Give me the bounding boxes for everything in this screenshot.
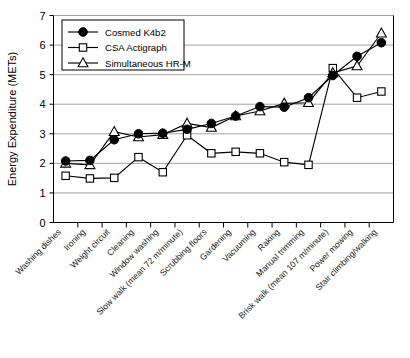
- data-point-marker: [305, 161, 312, 168]
- y-tick-label: 5: [39, 69, 45, 81]
- data-point-marker: [353, 52, 362, 61]
- data-point-marker: [61, 157, 70, 166]
- chart-svg: 01234567Energy Expenditure (METs)Washing…: [0, 0, 410, 358]
- y-tick-label: 3: [39, 128, 45, 140]
- data-point-marker: [62, 172, 69, 179]
- data-point-marker: [256, 150, 263, 157]
- y-tick-label: 0: [39, 217, 45, 229]
- y-axis-title: Energy Expenditure (METs): [6, 52, 18, 187]
- data-point-marker: [353, 94, 360, 101]
- y-tick-label: 1: [39, 187, 45, 199]
- legend-label: Cosmed K4b2: [105, 27, 166, 38]
- energy-expenditure-chart: 01234567Energy Expenditure (METs)Washing…: [0, 0, 410, 358]
- x-category-label: Brisk walk (mean 107 m/minute): [236, 227, 330, 321]
- data-point-marker: [256, 102, 265, 111]
- data-point-marker: [110, 135, 119, 144]
- data-point-marker: [232, 148, 239, 155]
- data-point-marker: [183, 125, 192, 134]
- data-point-marker: [158, 129, 167, 138]
- data-point-marker: [79, 44, 86, 51]
- data-point-marker: [376, 28, 386, 37]
- data-point-marker: [378, 88, 385, 95]
- data-point-marker: [79, 28, 88, 37]
- data-point-marker: [134, 129, 143, 138]
- y-axis: 01234567Energy Expenditure (METs): [6, 10, 54, 229]
- data-point-marker: [86, 156, 95, 165]
- data-point-marker: [135, 153, 142, 160]
- legend-item: CSA Actigraph: [68, 42, 167, 53]
- data-point-marker: [231, 112, 240, 121]
- data-point-marker: [111, 174, 118, 181]
- legend-item: Cosmed K4b2: [68, 27, 166, 38]
- y-tick-label: 4: [39, 98, 45, 110]
- data-point-marker: [304, 93, 313, 102]
- data-point-marker: [328, 71, 337, 80]
- series-markers-csa-actigraph: [62, 64, 385, 182]
- data-point-marker: [281, 158, 288, 165]
- data-point-marker: [208, 150, 215, 157]
- y-tick-label: 2: [39, 157, 45, 169]
- legend-label: CSA Actigraph: [105, 42, 167, 53]
- data-point-marker: [159, 169, 166, 176]
- data-point-marker: [86, 175, 93, 182]
- data-point-marker: [207, 119, 216, 128]
- data-point-marker: [280, 103, 289, 112]
- x-category-label: Washing dishes: [13, 227, 63, 277]
- y-tick-label: 6: [39, 39, 45, 51]
- series-line-csa-actigraph: [66, 68, 382, 178]
- y-tick-label: 7: [39, 10, 45, 22]
- data-point-marker: [377, 38, 386, 47]
- legend: Cosmed K4b2CSA ActigraphSimultaneous HR-…: [62, 20, 191, 70]
- data-point-marker: [109, 127, 119, 136]
- legend-label: Simultaneous HR-M: [105, 58, 191, 69]
- x-axis: Washing dishesIroningWeight circuitClean…: [13, 223, 379, 321]
